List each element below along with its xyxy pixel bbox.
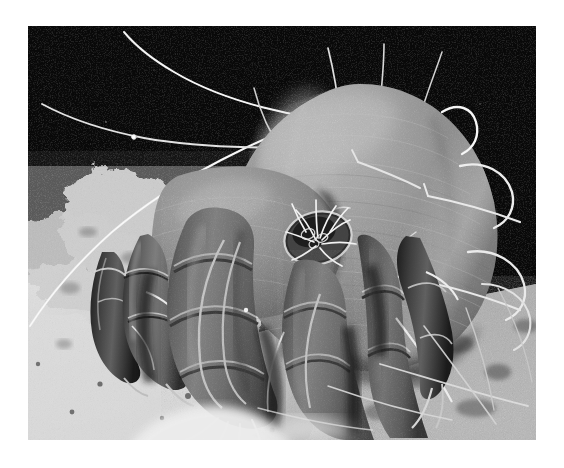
page-root: Scanning electron micrograph of a house … — [0, 0, 564, 468]
photo-frame: Scanning electron micrograph of a house … — [28, 26, 536, 440]
sem-micrograph-dust-mite — [28, 26, 536, 440]
